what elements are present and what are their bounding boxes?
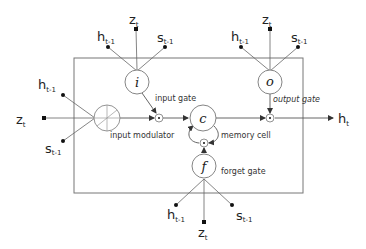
lstm-diagram: i o c f input gate output gate input mod… — [0, 0, 366, 249]
output-gate-label: output gate — [273, 95, 320, 104]
input-gate-node: i — [125, 70, 149, 94]
forget-gate-label: forget gate — [221, 167, 266, 176]
input-gate-h-label: ht-1 — [97, 29, 115, 46]
forget-gate-z-label: zt — [198, 225, 208, 242]
memory-cell-label: memory cell — [221, 131, 271, 140]
modulator-s-label: st-1 — [45, 141, 62, 157]
memory-cell-node: c — [190, 105, 216, 131]
output-gate-h-label: ht-1 — [231, 29, 249, 46]
output-gate-z-label: zt — [262, 12, 272, 29]
output-gate-inputs — [241, 29, 298, 71]
input-modulator-label: input modulator — [110, 131, 175, 140]
modulator-h-label: ht-1 — [38, 77, 56, 94]
input-multiply-node — [155, 114, 163, 122]
modulator-z-point — [42, 116, 46, 120]
output-gate-symbol: o — [266, 74, 274, 89]
output-multiply-node — [266, 114, 274, 122]
output-h-label: ht — [338, 111, 349, 128]
output-gate-node: o — [258, 70, 282, 94]
forget-gate-s-point — [230, 203, 234, 207]
memory-cell-symbol: c — [199, 111, 207, 126]
modulator-z-label: zt — [16, 112, 26, 129]
modulator-s-point — [61, 139, 65, 143]
forget-gate-z-point — [202, 220, 206, 224]
input-modulator-node — [94, 105, 120, 131]
input-gate-z-label: zt — [129, 12, 139, 29]
input-modulator-inputs — [44, 95, 95, 141]
forget-gate-node: f — [192, 154, 216, 178]
input-gate-s-label: st-1 — [157, 30, 174, 46]
forget-gate-s-label: st-1 — [236, 208, 253, 224]
forget-multiply-node — [200, 139, 208, 147]
input-gate-label: input gate — [155, 94, 196, 103]
output-gate-s-label: st-1 — [291, 30, 308, 46]
input-gate-symbol: i — [135, 75, 139, 90]
forget-gate-h-label: ht-1 — [167, 207, 185, 224]
modulator-h-point — [61, 93, 65, 97]
